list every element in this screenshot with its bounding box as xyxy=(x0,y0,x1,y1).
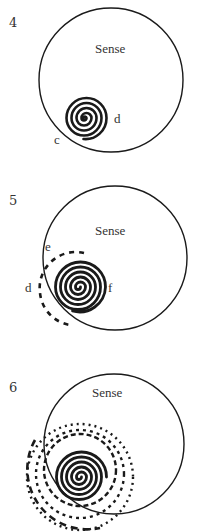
spiral-icon xyxy=(55,262,105,312)
point-label-d: d xyxy=(25,280,32,295)
panel-number: 6 xyxy=(9,380,17,395)
panel-5: 5 Sense e d f xyxy=(9,186,187,330)
point-label-c: c xyxy=(54,132,60,147)
figure-canvas: 4 Sense c d 5 Sense e d f 6 Sense xyxy=(0,0,205,532)
point-label-e: e xyxy=(45,239,51,254)
panel-4: 4 Sense c d xyxy=(9,8,183,152)
sense-circle xyxy=(39,8,183,152)
sense-circle xyxy=(43,186,187,330)
point-label-f: f xyxy=(108,280,113,295)
sense-label: Sense xyxy=(95,41,126,56)
spiral-icon xyxy=(56,452,106,500)
sense-label: Sense xyxy=(92,385,123,400)
spiral-icon xyxy=(67,98,107,139)
panel-6: 6 Sense xyxy=(9,374,184,530)
sense-label: Sense xyxy=(95,223,126,238)
point-label-d: d xyxy=(114,111,121,126)
panel-number: 5 xyxy=(9,193,17,208)
panel-number: 4 xyxy=(9,15,17,30)
